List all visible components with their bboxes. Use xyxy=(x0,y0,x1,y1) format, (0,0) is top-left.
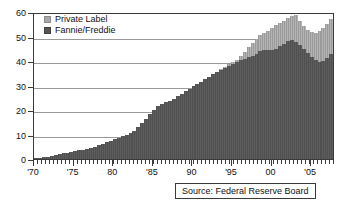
legend: Private Label Fannie/Freddie xyxy=(44,15,116,35)
stacked-series-layer xyxy=(34,14,333,159)
x-tick-label-1990: 90 xyxy=(186,167,196,177)
x-tick-mark-1975 xyxy=(73,160,74,166)
legend-swatch-private-label-icon xyxy=(44,16,51,23)
source-note: Source: Federal Reserve Board xyxy=(175,183,316,199)
x-tick-mark-1980 xyxy=(112,160,113,166)
x-tick-label-1985: '85 xyxy=(146,167,158,177)
y-tick-label-50: 50 xyxy=(16,33,26,42)
x-tick-label-2000: 00 xyxy=(266,167,276,177)
bar-column xyxy=(329,14,333,159)
plot-area xyxy=(33,13,334,160)
x-tick-mark-2005 xyxy=(310,160,311,166)
y-tick-label-60: 60 xyxy=(16,9,26,18)
legend-label-private-label: Private Label xyxy=(55,15,108,24)
y-tick-label-30: 30 xyxy=(16,82,26,91)
bar-segment-private-label xyxy=(329,19,333,53)
y-axis: 0102030405060 xyxy=(0,0,33,172)
legend-swatch-fannie-freddie-icon xyxy=(44,27,51,34)
x-minor-ticks xyxy=(33,160,334,164)
x-tick-mark-1990 xyxy=(191,160,192,166)
x-tick-mark-1995 xyxy=(231,160,232,166)
y-tick-label-20: 20 xyxy=(16,107,26,116)
x-tick-label-1975: '75 xyxy=(67,167,79,177)
x-tick-label-1970: '70 xyxy=(27,167,39,177)
legend-item-fannie-freddie: Fannie/Freddie xyxy=(44,26,116,35)
legend-label-fannie-freddie: Fannie/Freddie xyxy=(55,26,116,35)
legend-item-private-label: Private Label xyxy=(44,15,116,24)
x-tick-label-2005: '05 xyxy=(304,167,316,177)
x-tick-mark-2000 xyxy=(271,160,272,166)
chart-container: 0102030405060 '70'7580'8590'9500'05 Priv… xyxy=(0,0,356,212)
y-tick-label-10: 10 xyxy=(16,131,26,140)
x-tick-label-1980: 80 xyxy=(107,167,117,177)
bar-segment-fannie-freddie xyxy=(329,54,333,159)
y-tick-label-40: 40 xyxy=(16,58,26,67)
x-tick-mark-1985 xyxy=(152,160,153,166)
y-tick-label-0: 0 xyxy=(21,156,26,165)
x-tick-mark-1970 xyxy=(33,160,34,166)
x-tick-label-1995: '95 xyxy=(225,167,237,177)
